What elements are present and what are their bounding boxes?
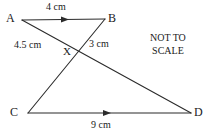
arrowhead-ab-icon bbox=[61, 17, 69, 23]
measurement-label-ax: 4.5 cm bbox=[14, 40, 41, 50]
measurement-label-cd: 9 cm bbox=[91, 120, 111, 130]
segment-bc bbox=[28, 19, 105, 113]
not-to-scale-note-line-2: SCALE bbox=[150, 45, 186, 58]
vertex-label-x: X bbox=[63, 46, 71, 57]
arrowhead-cd-icon bbox=[103, 110, 111, 116]
vertex-label-a: A bbox=[6, 12, 15, 24]
not-to-scale-note-line-1: NOT TO bbox=[150, 32, 186, 45]
vertex-label-b: B bbox=[108, 12, 116, 24]
measurement-label-ab: 4 cm bbox=[46, 2, 66, 12]
geometry-diagram: A B C D X 4 cm 4.5 cm 3 cm 9 cm NOT TO S… bbox=[0, 0, 219, 136]
measurement-label-bx: 3 cm bbox=[89, 39, 109, 49]
not-to-scale-note: NOT TO SCALE bbox=[150, 32, 186, 57]
vertex-label-c: C bbox=[10, 106, 18, 118]
vertex-label-d: D bbox=[194, 106, 203, 118]
